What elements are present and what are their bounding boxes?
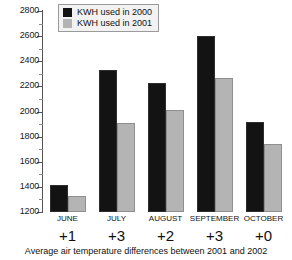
y-tick-label: 2000 [5, 107, 39, 116]
bar [166, 110, 184, 212]
category-label: OCTOBER [244, 215, 283, 223]
bar [246, 122, 264, 212]
temperature-difference-label: +2 [157, 228, 174, 243]
temperature-difference-label: +0 [255, 228, 272, 243]
y-tick-label: 2600 [5, 31, 39, 40]
temperature-difference-label: +3 [108, 228, 125, 243]
bar-group [50, 11, 86, 212]
bar [50, 185, 68, 212]
category-label: JULY [107, 215, 126, 223]
bar [99, 70, 117, 212]
bar-group [99, 11, 135, 212]
category-label: AUGUST [149, 215, 182, 223]
y-tick-label: 1800 [5, 132, 39, 141]
bar-group [148, 11, 184, 212]
temperature-difference-label: +1 [59, 228, 76, 243]
bar [117, 123, 135, 212]
y-tick-label: 2200 [5, 81, 39, 90]
bar-group [246, 11, 282, 212]
y-tick-label: 1600 [5, 157, 39, 166]
plot-area [43, 11, 288, 212]
temperature-difference-label: +3 [206, 228, 223, 243]
chart-caption: Average air temperature differences betw… [0, 247, 292, 256]
y-tick-label: 1400 [5, 182, 39, 191]
y-tick-label: 2400 [5, 56, 39, 65]
bar-chart: KWH used in 2000 KWH used in 2001 120014… [0, 0, 292, 260]
category-label: SEPTEMBER [190, 215, 239, 223]
bar [197, 36, 215, 212]
bar [215, 78, 233, 212]
y-tick-label: 1200 [5, 207, 39, 216]
bar [148, 83, 166, 212]
category-label: JUNE [57, 215, 78, 223]
bar [264, 144, 282, 212]
bar-group [197, 11, 233, 212]
y-tick-label: 2800 [5, 6, 39, 15]
bar [68, 196, 86, 212]
